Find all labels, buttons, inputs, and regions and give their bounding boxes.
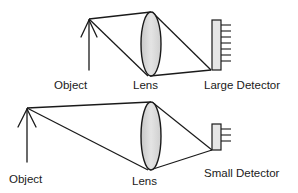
object-arrow-icon [81,20,97,70]
object-label: Object [9,174,42,186]
small-detector-icon [212,124,231,150]
lens-label: Lens [133,80,158,92]
lens-icon [141,12,161,76]
large-detector-icon [212,20,231,70]
bottom-diagram [18,102,231,170]
optics-diagram [0,0,298,193]
large-detector-label: Large Detector [204,80,280,92]
small-detector-label: Small Detector [204,168,279,180]
top-diagram [81,12,231,76]
lens-icon [141,102,161,170]
light-rays [27,102,212,170]
object-arrow-icon [18,109,36,162]
lens-label: Lens [132,176,157,188]
object-label: Object [54,80,87,92]
